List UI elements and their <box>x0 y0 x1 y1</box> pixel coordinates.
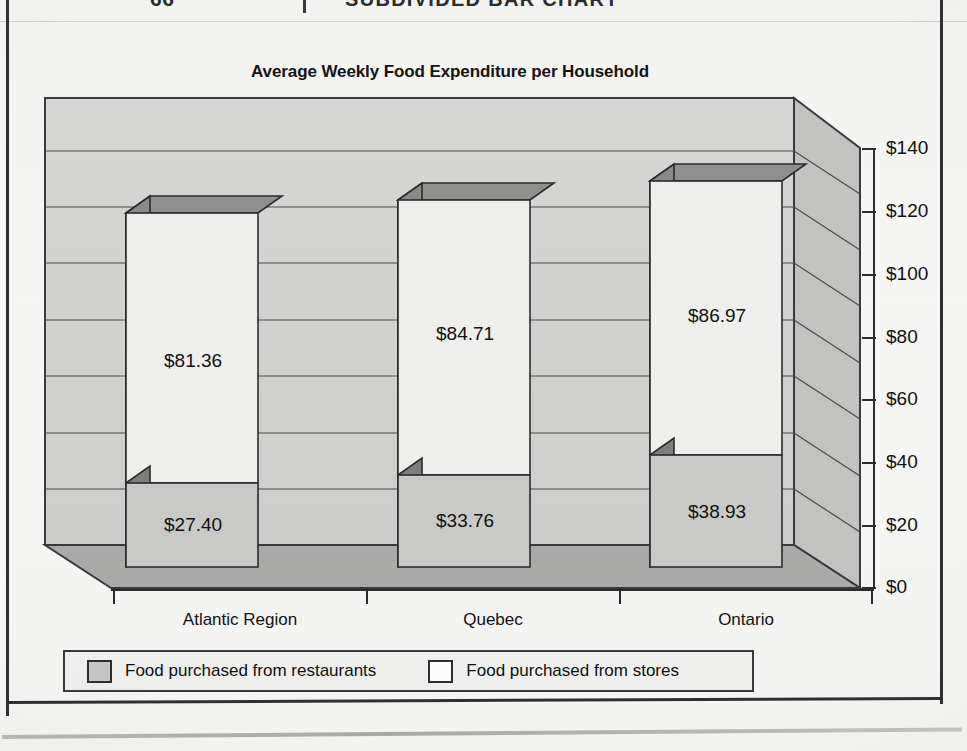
y-tick-label: $120 <box>886 200 928 222</box>
chart-figure: Average Weekly Food Expenditure per Hous… <box>0 0 967 710</box>
x-category-label: Ontario <box>646 610 846 630</box>
y-tick-label: $0 <box>886 576 907 598</box>
bar-value-label: $81.36 <box>164 350 222 372</box>
legend-label: Food purchased from stores <box>466 661 679 681</box>
bar-atlantic-region[interactable] <box>126 196 282 567</box>
bar-value-label: $33.76 <box>436 510 494 532</box>
y-tick-label: $20 <box>886 514 918 536</box>
x-category-label: Quebec <box>393 610 593 630</box>
y-tick-label: $60 <box>886 388 918 410</box>
x-category-label: Atlantic Region <box>140 610 340 630</box>
legend-swatch-icon <box>87 660 112 683</box>
y-tick-label: $100 <box>886 263 928 285</box>
scanned-page: 66 Subdivided Bar Chart Average Weekly F… <box>0 0 967 751</box>
bar-value-label: $38.93 <box>688 501 746 523</box>
x-axis-ticks <box>114 590 872 604</box>
y-tick-label: $40 <box>886 451 918 473</box>
legend-swatch-icon <box>428 660 453 683</box>
legend-entry-stores[interactable]: Food purchased from stores <box>428 660 679 683</box>
bar-value-label: $84.71 <box>436 323 494 345</box>
legend-label: Food purchased from restaurants <box>125 661 376 681</box>
chart-right-wall <box>794 98 860 588</box>
bar-value-label: $86.97 <box>688 305 746 327</box>
legend-entry-restaurants[interactable]: Food purchased from restaurants <box>87 660 376 683</box>
y-tick-label: $140 <box>886 137 928 159</box>
chart-plot-area <box>0 0 967 710</box>
y-tick-label: $80 <box>886 326 918 348</box>
bar-atlantic-stores-front <box>126 213 258 483</box>
chart-legend: Food purchased from restaurants Food pur… <box>63 650 754 692</box>
bar-value-label: $27.40 <box>164 514 222 536</box>
page-footer-rule <box>2 727 962 739</box>
